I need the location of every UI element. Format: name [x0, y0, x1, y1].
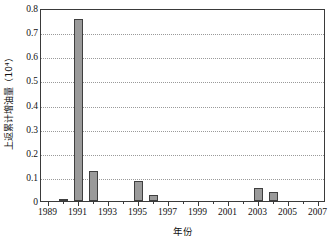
y-tick-label: 0 [4, 198, 38, 207]
bar-chart-figure: 上返累计增油量（10⁴） 00.10.20.30.40.50.60.70.8 1… [0, 0, 336, 242]
x-axis-tick-labels: 1989199119931995199719992001200320052007 [40, 202, 325, 212]
x-tick-mark [198, 202, 199, 206]
x-tick-mark [108, 202, 109, 206]
bar [74, 19, 83, 201]
x-tick-mark [168, 202, 169, 206]
y-axis-tick-labels: 00.10.20.30.40.50.60.70.8 [0, 0, 38, 242]
x-tick-mark-minor [63, 202, 64, 204]
bar [254, 188, 263, 201]
x-tick-mark [288, 202, 289, 206]
y-tick-label: 0.7 [4, 29, 38, 38]
x-tick-label: 2007 [298, 207, 336, 218]
y-tick-label: 0.2 [4, 149, 38, 158]
bar [59, 199, 68, 201]
plot-area [40, 9, 325, 202]
y-tick-label: 0.5 [4, 77, 38, 86]
x-tick-mark [318, 202, 319, 206]
x-tick-mark-minor [153, 202, 154, 204]
x-tick-mark-minor [243, 202, 244, 204]
x-tick-mark-minor [213, 202, 214, 204]
bar [269, 192, 278, 201]
y-tick-label: 0.4 [4, 101, 38, 110]
x-tick-mark-minor [183, 202, 184, 204]
x-tick-mark-minor [93, 202, 94, 204]
x-tick-mark [78, 202, 79, 206]
bar [89, 171, 98, 201]
bar-series [41, 10, 324, 201]
x-tick-mark [138, 202, 139, 206]
y-tick-label: 0.3 [4, 125, 38, 134]
bar [149, 195, 158, 201]
x-tick-mark [228, 202, 229, 206]
x-tick-mark-minor [303, 202, 304, 204]
x-axis-title: 年份 [40, 224, 325, 238]
y-tick-label: 0.1 [4, 173, 38, 182]
x-tick-mark-minor [273, 202, 274, 204]
x-tick-mark [48, 202, 49, 206]
x-tick-mark [258, 202, 259, 206]
bar [134, 181, 143, 202]
y-tick-label: 0.8 [4, 5, 38, 14]
y-tick-label: 0.6 [4, 53, 38, 62]
x-tick-mark-minor [123, 202, 124, 204]
